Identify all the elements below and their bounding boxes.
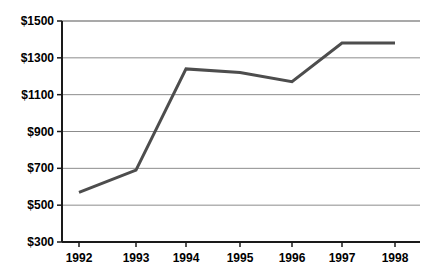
x-axis-tick-label: 1998 bbox=[370, 252, 420, 264]
x-axis-tick-label: 1992 bbox=[54, 252, 104, 264]
y-axis-tick-label: $1500 bbox=[21, 15, 54, 27]
y-axis-tick-label: $1100 bbox=[21, 89, 54, 101]
y-axis-tick-label: $500 bbox=[27, 199, 54, 211]
x-axis-tick-label: 1994 bbox=[161, 252, 211, 264]
x-axis-tick-label: 1996 bbox=[267, 252, 317, 264]
x-axis-tick-label: 1993 bbox=[111, 252, 161, 264]
line-chart: $300$500$700$900$1100$1300$1500 19921993… bbox=[0, 0, 438, 274]
data-series-line bbox=[79, 43, 395, 192]
y-axis-tick-label: $700 bbox=[27, 162, 54, 174]
x-axis-tick-label: 1997 bbox=[317, 252, 367, 264]
y-axis-tick-label: $900 bbox=[27, 126, 54, 138]
y-axis-tick-label: $300 bbox=[27, 236, 54, 248]
x-axis-tick-label: 1995 bbox=[215, 252, 265, 264]
chart-canvas bbox=[0, 0, 438, 274]
y-axis-tick-label: $1300 bbox=[21, 52, 54, 64]
